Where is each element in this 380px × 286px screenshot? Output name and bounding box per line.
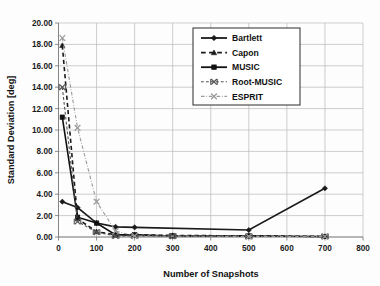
x-tick-label: 700 bbox=[318, 244, 332, 253]
y-tick-label: 16.00 bbox=[32, 62, 53, 71]
x-tick-label: 400 bbox=[204, 244, 218, 253]
y-tick-label: 0.00 bbox=[37, 233, 53, 242]
y-tick-label: 10.00 bbox=[32, 126, 53, 135]
legend-label: ESPRIT bbox=[232, 92, 264, 102]
y-tick-label: 8.00 bbox=[37, 147, 53, 156]
x-tick-label: 500 bbox=[242, 244, 256, 253]
y-tick-label: 2.00 bbox=[37, 212, 53, 221]
x-tick-label: 300 bbox=[166, 244, 180, 253]
legend-label: Bartlett bbox=[232, 33, 262, 43]
chart-legend[interactable]: BartlettCaponMUSICRoot-MUSICESPRIT bbox=[193, 28, 300, 105]
legend-label: MUSIC bbox=[232, 62, 260, 72]
y-axis-title: Standard Deviation [deg] bbox=[6, 76, 16, 185]
legend-label: Capon bbox=[232, 48, 259, 58]
legend-label: Root-MUSIC bbox=[232, 77, 282, 87]
x-tick-label: 600 bbox=[280, 244, 294, 253]
y-tick-label: 4.00 bbox=[37, 190, 53, 199]
data-point-marker bbox=[212, 65, 217, 70]
data-point-marker bbox=[60, 115, 64, 119]
data-point-marker bbox=[94, 221, 98, 225]
x-tick-label: 800 bbox=[356, 244, 370, 253]
y-tick-label: 20.00 bbox=[32, 19, 53, 28]
y-tick-label: 14.00 bbox=[32, 83, 53, 92]
y-tick-label: 18.00 bbox=[32, 40, 53, 49]
x-tick-label: 100 bbox=[90, 244, 104, 253]
x-tick-label: 200 bbox=[128, 244, 142, 253]
x-axis-title: Number of Snapshots bbox=[163, 269, 258, 279]
x-axis-tick-labels: 0100200300400500600700800 bbox=[56, 244, 370, 253]
standard-deviation-vs-snapshots-chart: 0.002.004.006.008.0010.0012.0014.0016.00… bbox=[0, 0, 380, 286]
x-tick-label: 0 bbox=[56, 244, 61, 253]
y-tick-label: 6.00 bbox=[37, 169, 53, 178]
y-tick-label: 12.00 bbox=[32, 105, 53, 114]
chart-page: 0.002.004.006.008.0010.0012.0014.0016.00… bbox=[0, 0, 380, 286]
